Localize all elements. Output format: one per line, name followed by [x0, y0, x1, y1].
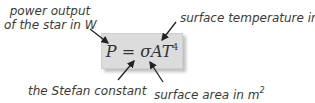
arrow-temperature-icon	[162, 22, 176, 40]
arrow-stefan-icon	[118, 61, 134, 80]
arrow-power-icon	[90, 29, 108, 43]
arrow-area-icon	[150, 62, 163, 82]
arrows-layer	[0, 0, 315, 103]
